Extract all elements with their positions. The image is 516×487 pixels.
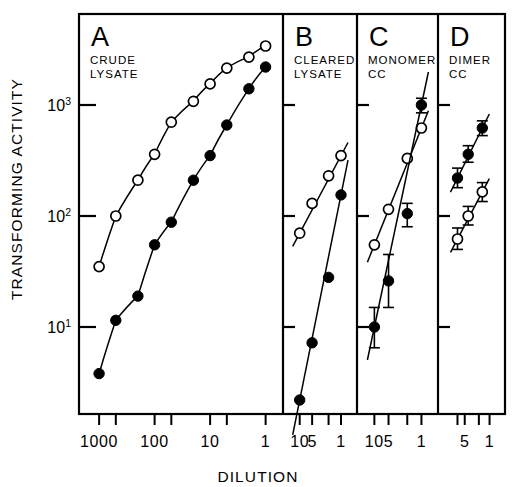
x-tick-label-C-10: 10 — [365, 433, 384, 450]
data-point-A-filled-5 — [188, 175, 198, 185]
x-tick-label-D-5: 5 — [460, 433, 470, 450]
data-point-A-filled-2 — [133, 291, 143, 301]
panel-letter-D: D — [450, 22, 470, 52]
data-point-B-open-3 — [336, 151, 346, 161]
x-tick-label-A-10: 10 — [201, 433, 220, 450]
data-point-D-filled-1 — [463, 149, 473, 159]
x-tick-label-C-1: 1 — [417, 433, 427, 450]
data-point-A-open-3 — [150, 149, 160, 159]
data-point-D-filled-0 — [452, 173, 462, 183]
panel-letter-C: C — [369, 22, 389, 52]
data-point-A-filled-4 — [166, 217, 176, 227]
data-point-A-filled-8 — [244, 84, 254, 94]
x-tick-label-B-1: 1 — [336, 433, 346, 450]
data-point-D-open-0 — [453, 234, 463, 244]
data-point-A-open-5 — [188, 96, 198, 106]
data-point-B-open-0 — [295, 228, 305, 238]
x-axis-title: DILUTION — [217, 468, 298, 485]
data-point-A-open-1 — [111, 211, 121, 221]
y-tick-label-10: 101 — [47, 317, 71, 336]
panel-letter-A: A — [91, 22, 109, 52]
data-point-B-filled-1 — [307, 338, 317, 348]
panel-caption-D-line2: CC — [449, 68, 468, 80]
x-tick-label-A-1000: 1000 — [80, 433, 118, 450]
chart-static-layer — [79, 14, 505, 425]
data-point-A-open-8 — [244, 52, 254, 62]
series-line-C-filled — [367, 72, 428, 360]
x-tick-label-C-5: 5 — [384, 433, 394, 450]
data-point-B-filled-2 — [323, 272, 333, 282]
data-point-D-open-2 — [477, 187, 487, 197]
data-point-B-filled-3 — [336, 190, 346, 200]
series-line-A-filled — [99, 67, 266, 374]
x-tick-label-A-100: 100 — [140, 433, 169, 450]
figure-container: 101102103TRANSFORMING ACTIVITYDILUTIONAC… — [0, 0, 516, 487]
panel-caption-B-line1: CLEARED — [294, 54, 355, 66]
data-point-C-filled-3 — [416, 100, 426, 110]
x-tick-label-B-5: 5 — [307, 433, 317, 450]
data-point-B-open-1 — [307, 198, 317, 208]
data-point-D-open-1 — [463, 211, 473, 221]
panel-caption-A-line2: LYSATE — [90, 68, 138, 80]
panel-caption-C-line2: CC — [368, 68, 387, 80]
panel-letter-B: B — [295, 22, 313, 52]
data-point-A-open-0 — [94, 262, 104, 272]
y-tick-label-1000: 103 — [47, 95, 71, 114]
data-point-A-filled-9 — [260, 62, 270, 72]
data-point-A-filled-3 — [149, 240, 159, 250]
data-point-A-open-9 — [261, 41, 271, 51]
data-point-B-filled-0 — [295, 395, 305, 405]
data-point-B-open-2 — [324, 171, 334, 181]
panel-caption-B-line2: LYSATE — [294, 68, 342, 80]
data-point-A-filled-0 — [94, 368, 104, 378]
data-point-A-filled-7 — [222, 120, 232, 130]
data-point-D-filled-2 — [477, 123, 487, 133]
data-point-C-filled-0 — [369, 322, 379, 332]
plot-frame — [79, 14, 505, 414]
x-tick-label-A-1: 1 — [261, 433, 271, 450]
data-point-A-filled-1 — [111, 315, 121, 325]
data-point-A-open-2 — [133, 175, 143, 185]
data-point-C-filled-1 — [383, 276, 393, 286]
data-point-A-open-4 — [166, 117, 176, 127]
multi-panel-chart: 101102103TRANSFORMING ACTIVITYDILUTIONAC… — [0, 0, 516, 487]
y-tick-label-100: 102 — [47, 206, 71, 225]
panel-caption-C-line1: MONOMER — [368, 54, 436, 66]
data-point-C-open-0 — [369, 240, 379, 250]
x-tick-label-B-10: 10 — [290, 433, 309, 450]
panel-caption-D-line1: DIMER — [449, 54, 491, 66]
data-point-A-open-7 — [222, 63, 232, 73]
series-line-B-filled — [293, 160, 348, 435]
x-tick-label-D-1: 1 — [485, 433, 495, 450]
data-point-A-open-6 — [205, 79, 215, 89]
data-point-C-open-1 — [384, 204, 394, 214]
y-axis-title: TRANSFORMING ACTIVITY — [8, 78, 25, 300]
panel-caption-A-line1: CRUDE — [90, 54, 136, 66]
data-point-A-filled-6 — [205, 150, 215, 160]
data-point-C-filled-2 — [402, 208, 412, 218]
chart-data-layer — [94, 41, 489, 435]
